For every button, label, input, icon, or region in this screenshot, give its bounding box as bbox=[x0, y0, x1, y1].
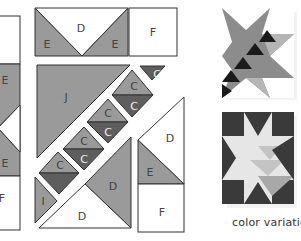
piece-label-c: C bbox=[130, 80, 138, 93]
piece-label-c: C bbox=[80, 135, 88, 148]
top-strip: E D E F bbox=[35, 8, 177, 56]
star-block-variation-1 bbox=[222, 8, 297, 100]
piece-label-j: J bbox=[63, 91, 67, 104]
star-block-variation-2 bbox=[222, 112, 297, 208]
left-partial-block: E E F bbox=[0, 16, 20, 230]
piece-label-c: C bbox=[104, 107, 112, 120]
piece-label-d: D bbox=[78, 210, 86, 223]
piece-label-i: I bbox=[41, 195, 44, 208]
piece-label-c: C bbox=[56, 159, 64, 172]
piece-label-e: E bbox=[44, 38, 51, 51]
quilt-pattern-diagram: E E F E D E F J C C C C C C C C bbox=[0, 0, 301, 241]
piece-label-c: C bbox=[104, 126, 112, 139]
piece-label-c: C bbox=[80, 153, 88, 166]
piece-label-d: D bbox=[109, 180, 117, 193]
piece-label-e: E bbox=[147, 166, 154, 179]
color-variations-caption: color variations bbox=[232, 216, 301, 229]
piece-label-f: F bbox=[0, 192, 5, 205]
piece-label-e: E bbox=[112, 38, 119, 51]
piece-label-e: E bbox=[2, 157, 9, 170]
piece-label-f: F bbox=[159, 206, 165, 219]
piece-label-f: F bbox=[150, 26, 156, 39]
piece-label-d: D bbox=[77, 22, 85, 35]
right-column: D E F bbox=[138, 97, 184, 232]
piece-label-e: E bbox=[2, 74, 9, 87]
piece-label-d: D bbox=[166, 132, 174, 145]
piece-label-c: C bbox=[153, 68, 161, 81]
piece-label-c: C bbox=[130, 100, 138, 113]
